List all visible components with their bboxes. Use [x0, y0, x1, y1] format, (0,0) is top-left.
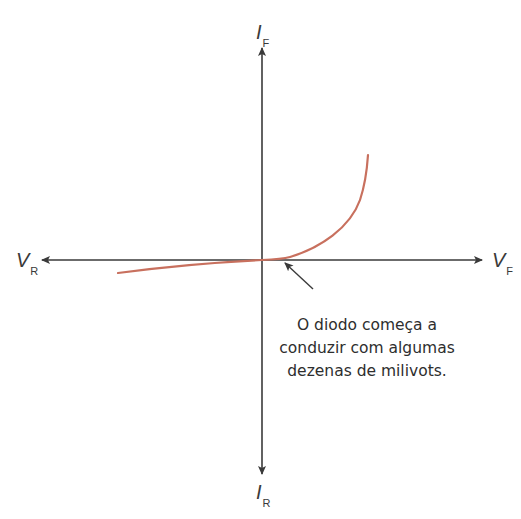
- label-ir-sub: R: [263, 497, 271, 509]
- label-vf: VF: [492, 250, 513, 270]
- label-vr: VR: [16, 250, 38, 270]
- diode-curve: [118, 155, 368, 273]
- label-ir-main: I: [256, 481, 262, 503]
- label-vr-main: V: [16, 249, 29, 271]
- annotation-arrow: [285, 263, 313, 289]
- annotation-line-3: dezenas de milivots.: [267, 360, 467, 383]
- label-if: IF: [256, 22, 269, 42]
- label-vf-sub: F: [506, 265, 513, 277]
- label-vf-main: V: [492, 249, 505, 271]
- label-if-main: I: [256, 21, 262, 43]
- label-vr-sub: R: [30, 265, 38, 277]
- annotation-line-1: O diodo começa a: [267, 314, 467, 337]
- conduction-annotation: O diodo começa a conduzir com algumas de…: [267, 314, 467, 383]
- label-if-sub: F: [263, 37, 270, 49]
- diode-iv-plot: [0, 0, 521, 519]
- label-ir: IR: [256, 482, 271, 502]
- annotation-line-2: conduzir com algumas: [267, 337, 467, 360]
